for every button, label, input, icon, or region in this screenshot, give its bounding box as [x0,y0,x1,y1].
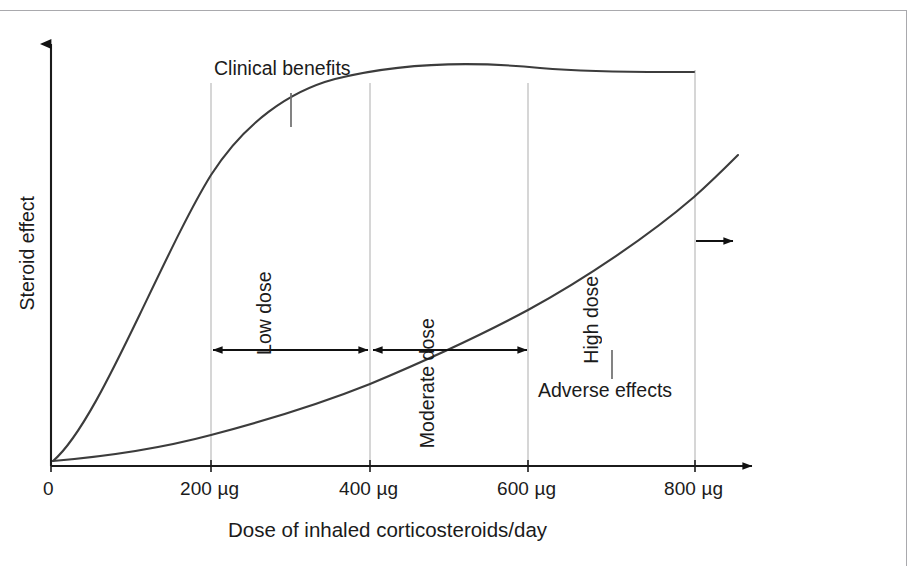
x-tick-label-800: 800 µg [664,479,723,498]
y-axis-title: Steroid effect [18,196,38,311]
x-tick-label-0: 0 [43,479,54,498]
curve-clinical-benefits [53,64,694,461]
band-label-high-dose: High dose [582,276,602,364]
band-label-low-dose: Low dose [255,271,275,354]
x-tick-label-200: 200 µg [180,479,239,498]
figure-container: Steroid effect Dose of inhaled corticost… [0,0,919,566]
x-tick-label-600: 600 µg [497,479,556,498]
annotation-clinical-benefits: Clinical benefits [214,59,351,79]
x-tick-label-400: 400 µg [339,479,398,498]
chart-plot-area [0,0,919,566]
band-label-moderate-dose: Moderate dose [418,318,438,448]
gridlines [211,70,695,466]
x-axis-title: Dose of inhaled corticosteroids/day [228,520,547,541]
annotation-adverse-effects: Adverse effects [538,381,672,401]
curve-adverse [53,155,738,461]
